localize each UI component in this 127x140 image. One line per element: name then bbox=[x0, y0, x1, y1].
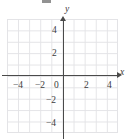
y-tick-label-neg4: −4 bbox=[46, 119, 56, 129]
y-tick-label-neg2: −2 bbox=[46, 96, 56, 106]
coordinate-plane-figure: −4 −2 0 2 4 4 2 −2 −4 x y bbox=[0, 0, 127, 140]
x-axis-label: x bbox=[120, 68, 124, 78]
y-axis-line bbox=[63, 21, 64, 139]
y-tick-label-pos2: 2 bbox=[52, 49, 57, 59]
y-tick-label-pos4: 4 bbox=[52, 26, 57, 36]
x-tick-label-zero: 0 bbox=[54, 81, 59, 91]
x-tick-label-pos2: 2 bbox=[84, 81, 89, 91]
x-tick-label-pos4: 4 bbox=[107, 81, 112, 91]
scan-artifact-smudge bbox=[42, 0, 51, 3]
y-axis-arrowhead-icon bbox=[60, 16, 66, 21]
x-axis-line bbox=[2, 75, 119, 76]
y-axis-label: y bbox=[65, 5, 69, 15]
x-tick-label-neg2: −2 bbox=[35, 81, 45, 91]
x-tick-label-neg4: −4 bbox=[13, 81, 23, 91]
